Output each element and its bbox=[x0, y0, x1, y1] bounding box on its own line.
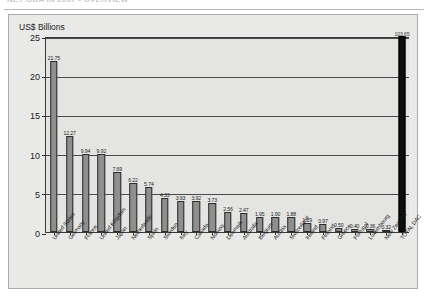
y-tick-label: 0 bbox=[35, 229, 40, 239]
bar-slot: 5.74 bbox=[141, 38, 157, 232]
bar[interactable]: 9.92 bbox=[98, 154, 106, 232]
bar-value-label: 12.27 bbox=[64, 130, 76, 136]
bar-slot: 2.56 bbox=[220, 38, 236, 232]
x-axis-labels: United StatesGermanyFranceUnited Kingdom… bbox=[45, 235, 409, 290]
bar-value-label: 2.56 bbox=[223, 206, 233, 212]
bar-value-label: 7.69 bbox=[112, 166, 122, 172]
bar-slot: 0.97 bbox=[315, 38, 331, 232]
bar-value-label: 3.93 bbox=[176, 195, 186, 201]
bar-slot: 0.50 bbox=[331, 38, 347, 232]
y-tick-label: 15 bbox=[30, 111, 40, 121]
bar-slot: 9.92 bbox=[93, 38, 109, 232]
bar-slot: 0.32 bbox=[378, 38, 394, 232]
y-tick-label: 10 bbox=[30, 151, 40, 161]
bar-series: 21.7512.279.949.927.696.225.744.333.933.… bbox=[46, 38, 409, 232]
bar-value-label: 3.92 bbox=[192, 195, 202, 201]
bar-slot: 6.22 bbox=[125, 38, 141, 232]
bar-slot: 0.40 bbox=[347, 38, 363, 232]
bar-slot: 9.94 bbox=[78, 38, 94, 232]
bar-value-label: 0.97 bbox=[318, 218, 328, 224]
bar[interactable]: 103.65 bbox=[399, 36, 406, 232]
bar-value-label: 4.33 bbox=[160, 192, 170, 198]
bar-slot: 1.95 bbox=[252, 38, 268, 232]
bar-slot: 21.75 bbox=[46, 38, 62, 232]
bar[interactable]: 4.33 bbox=[161, 198, 169, 232]
bar-value-label: 9.92 bbox=[97, 148, 107, 154]
bar[interactable]: 6.22 bbox=[129, 183, 137, 232]
bar-slot: 1.90 bbox=[268, 38, 284, 232]
y-axis-title: US$ Billions bbox=[19, 22, 65, 32]
bar-slot: 3.92 bbox=[188, 38, 204, 232]
plot-wrapper: 0510152025 21.7512.279.949.927.696.225.7… bbox=[45, 37, 409, 233]
bar-slot: 4.33 bbox=[157, 38, 173, 232]
chart-panel: US$ Billions 0510152025 21.7512.279.949.… bbox=[8, 14, 418, 289]
bar-value-label: 6.22 bbox=[128, 177, 138, 183]
bar-value-label: 21.75 bbox=[48, 55, 60, 61]
bar-value-label: 9.94 bbox=[81, 148, 91, 154]
document-header: NET ODA IN 2007 - OVERVIEW bbox=[0, 0, 428, 11]
header-divider bbox=[4, 9, 424, 10]
bar-value-label: 103.65 bbox=[395, 31, 410, 37]
bar-value-label: 1.95 bbox=[255, 211, 265, 217]
plot-area: 0510152025 21.7512.279.949.927.696.225.7… bbox=[45, 37, 409, 233]
bar-slot: 12.27 bbox=[62, 38, 78, 232]
bar-value-label: 2.47 bbox=[239, 207, 249, 213]
document-header-title: NET ODA IN 2007 - OVERVIEW bbox=[7, 0, 128, 4]
bar[interactable]: 3.93 bbox=[177, 201, 185, 232]
bar-value-label: 5.74 bbox=[144, 181, 154, 187]
bar-slot: 1.88 bbox=[283, 38, 299, 232]
bar-value-label: 3.73 bbox=[207, 197, 217, 203]
y-tick-label: 25 bbox=[30, 33, 40, 43]
bar-slot: 3.73 bbox=[204, 38, 220, 232]
bar-slot: 3.93 bbox=[173, 38, 189, 232]
bar-slot: 1.19 bbox=[299, 38, 315, 232]
y-tick-label: 20 bbox=[30, 72, 40, 82]
y-tick-label: 5 bbox=[35, 190, 40, 200]
bar-value-label: 1.90 bbox=[271, 211, 281, 217]
bar[interactable]: 21.75 bbox=[50, 61, 58, 232]
bar-slot: 103.65 bbox=[394, 38, 410, 232]
bar-slot: 0.36 bbox=[363, 38, 379, 232]
bar-value-label: 1.88 bbox=[287, 211, 297, 217]
bar-slot: 2.47 bbox=[236, 38, 252, 232]
bar-slot: 7.69 bbox=[109, 38, 125, 232]
